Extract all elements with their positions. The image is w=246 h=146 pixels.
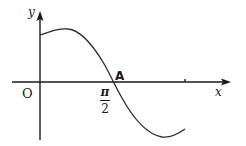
point-a-label: A — [115, 70, 124, 82]
pi-over-two-label: π 2 — [100, 86, 110, 115]
fraction-numerator: π — [101, 86, 110, 98]
function-graph: y O A π 2 x — [0, 0, 246, 146]
fraction-denominator: 2 — [101, 103, 109, 115]
origin-label: O — [22, 87, 33, 100]
x-axis-label: x — [215, 86, 222, 98]
y-axis-label: y — [28, 6, 35, 18]
fraction-bar — [100, 100, 110, 101]
sine-curve — [40, 29, 185, 137]
